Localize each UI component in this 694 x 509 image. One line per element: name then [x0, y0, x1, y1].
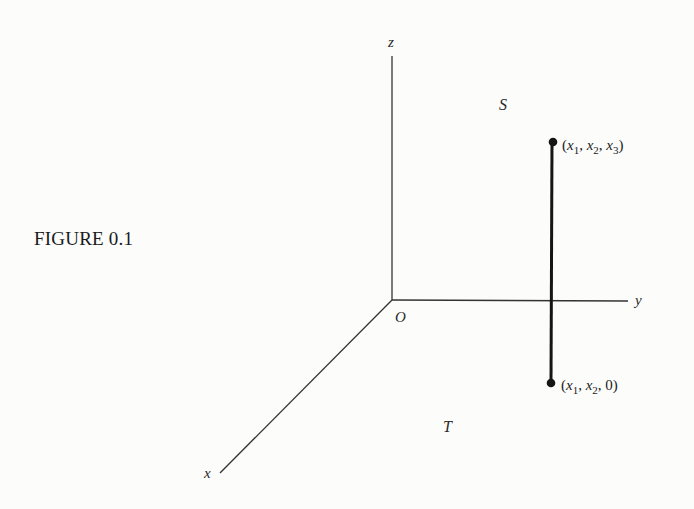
top-point-label: (x1, x2, x3) — [562, 137, 624, 156]
z-axis-label: z — [387, 34, 394, 50]
region-label-s: S — [499, 96, 507, 113]
y-axis-label: y — [633, 292, 642, 308]
y-axis — [392, 300, 628, 301]
region-label-t: T — [443, 418, 453, 435]
x-axis — [220, 300, 392, 473]
coordinate-diagram: z y x O S T (x1, x2, x3) (x1, x2, 0) — [0, 0, 694, 509]
bottom-point-dot — [547, 379, 556, 388]
x-axis-label: x — [203, 465, 211, 481]
figure-page: FIGURE 0.1 z y x O S T (x1, x2, x3) (x1,… — [0, 0, 694, 509]
vertical-segment — [551, 142, 552, 383]
origin-label: O — [395, 309, 406, 325]
bottom-point-label: (x1, x2, 0) — [561, 377, 618, 396]
top-point-dot — [549, 138, 558, 147]
